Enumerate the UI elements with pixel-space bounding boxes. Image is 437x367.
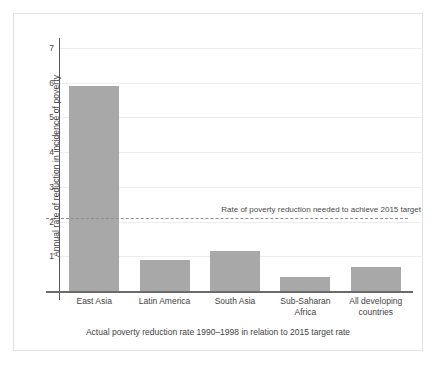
bar (280, 277, 330, 291)
bar (210, 251, 260, 291)
bar (351, 267, 401, 291)
x-axis-category-label: South Asia (200, 296, 270, 307)
y-axis-title: Annual rate of reduction in incidence of… (51, 59, 61, 274)
x-axis-category-label: All developingcountries (341, 296, 411, 317)
target-reference-line (46, 218, 408, 219)
target-reference-label: Rate of poverty reduction needed to achi… (221, 205, 421, 214)
x-axis-category-label: East Asia (59, 296, 129, 307)
y-axis-tick-label: 7 (34, 43, 54, 53)
plot-area (59, 41, 411, 291)
x-axis-category-label: Latin America (129, 296, 199, 307)
bar (140, 260, 190, 291)
bar (69, 86, 119, 291)
chart-caption: Actual poverty reduction rate 1990–1998 … (14, 327, 422, 337)
x-axis-line (46, 291, 413, 293)
x-axis-category-label: Sub-SaharanAfrica (270, 296, 340, 317)
y-axis-title-wrapper: Annual rate of reduction in incidence of… (22, 41, 34, 291)
chart-figure: 1234567 Annual rate of reduction in inci… (13, 13, 423, 351)
